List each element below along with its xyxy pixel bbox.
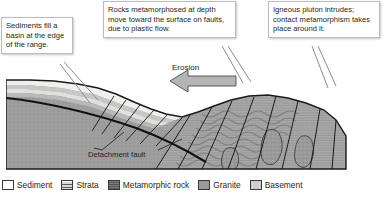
legend: Sediment Strata Metamorphic rock Granite… xyxy=(0,176,392,194)
legend-swatch-metamorphic xyxy=(108,180,120,190)
legend-label-basement: Basement xyxy=(265,180,303,190)
legend-item-metamorphic: Metamorphic rock xyxy=(108,180,190,190)
legend-label-granite: Granite xyxy=(213,180,240,190)
legend-swatch-sediment xyxy=(2,180,14,190)
legend-label-metamorphic: Metamorphic rock xyxy=(123,180,190,190)
callout-metamorphism: Rocks metamorphosed at depth move toward… xyxy=(103,1,236,38)
legend-item-granite: Granite xyxy=(198,180,240,190)
callout-pluton-text: Igneous pluton intrudes; contact metamor… xyxy=(273,5,370,33)
callout-metamorphism-text: Rocks metamorphosed at depth move toward… xyxy=(108,5,224,33)
figure-canvas: Sediments fill a basin at the edge of th… xyxy=(0,0,392,199)
legend-swatch-granite xyxy=(198,180,210,190)
legend-item-sediment: Sediment xyxy=(2,180,52,190)
legend-swatch-strata xyxy=(61,180,73,190)
callout-sediments-text: Sediments fill a basin at the edge of th… xyxy=(6,21,64,49)
legend-item-basement: Basement xyxy=(250,180,303,190)
legend-label-sediment: Sediment xyxy=(17,180,52,190)
callout-sediments: Sediments fill a basin at the edge of th… xyxy=(1,17,73,54)
legend-swatch-basement xyxy=(250,180,262,190)
legend-label-strata: Strata xyxy=(76,180,98,190)
callout-pluton: Igneous pluton intrudes; contact metamor… xyxy=(268,1,380,38)
legend-item-strata: Strata xyxy=(61,180,98,190)
